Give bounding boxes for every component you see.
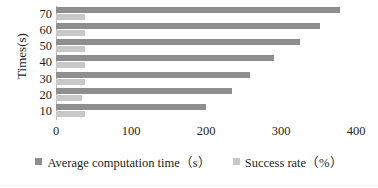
y-axis-tick-50: 50 [20, 40, 52, 52]
bar-average-computation-time-70 [56, 7, 340, 13]
bar-group-60 [56, 22, 358, 38]
bar-group-50 [56, 38, 358, 54]
y-axis-tick-60: 60 [20, 24, 52, 36]
bar-average-computation-time-10 [56, 104, 206, 110]
plot-area [56, 6, 358, 119]
bar-success-rate-20 [56, 95, 82, 101]
x-axis-tick-100: 100 [111, 124, 151, 139]
x-axis-tick-400: 400 [336, 124, 376, 139]
x-axis-tick-0: 0 [36, 124, 76, 139]
legend-label-success-rate: Success rate（%） [245, 152, 343, 171]
bar-average-computation-time-60 [56, 23, 320, 29]
bar-group-10 [56, 103, 358, 119]
bar-success-rate-50 [56, 46, 85, 52]
y-axis-tick-10: 10 [20, 105, 52, 117]
legend-swatch-dark-icon [35, 158, 42, 165]
legend-swatch-light-icon [233, 158, 240, 165]
x-axis-tick-200: 200 [186, 124, 226, 139]
bar-group-40 [56, 54, 358, 70]
x-axis-tick-labels: 0100200300400 [0, 124, 378, 140]
bar-success-rate-60 [56, 30, 85, 36]
bar-success-rate-70 [56, 14, 85, 20]
x-axis-tick-300: 300 [261, 124, 301, 139]
bar-average-computation-time-50 [56, 39, 300, 45]
bar-chart: Times(s) 70605040302010 0100200300400 Av… [0, 0, 378, 188]
bar-success-rate-40 [56, 62, 85, 68]
bar-group-20 [56, 87, 358, 103]
bar-average-computation-time-40 [56, 55, 274, 61]
legend-item-success-rate[interactable]: Success rate（%） [233, 152, 343, 171]
y-axis-tick-20: 20 [20, 89, 52, 101]
bar-group-30 [56, 71, 358, 87]
legend-label-average-computation-time: Average computation time（s） [47, 152, 210, 171]
y-axis-tick-40: 40 [20, 56, 52, 68]
chart-legend: Average computation time（s） Success rate… [0, 152, 378, 171]
bar-average-computation-time-30 [56, 72, 250, 78]
bar-success-rate-30 [56, 79, 85, 85]
bar-average-computation-time-20 [56, 88, 232, 94]
bar-group-70 [56, 6, 358, 22]
y-axis-tick-30: 30 [20, 73, 52, 85]
y-axis-tick-70: 70 [20, 8, 52, 20]
scan-edge-artifact [0, 185, 378, 186]
bar-success-rate-10 [56, 111, 85, 117]
legend-item-average-computation-time[interactable]: Average computation time（s） [35, 152, 210, 171]
